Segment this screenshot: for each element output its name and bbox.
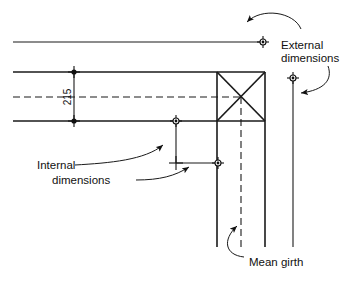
internal-dimension-origin-marker-upper: [170, 115, 182, 127]
leader-internal-to-vertical: [75, 145, 163, 165]
leader-external-to-top-line: [247, 13, 301, 29]
leader-internal-to-horizontal: [136, 167, 189, 180]
dimension-diagram-svg: 215: [0, 0, 353, 283]
mean-girth-label: Mean girth: [249, 256, 303, 268]
dimension-origin-marker-bottom: [68, 115, 80, 127]
dimension-origin-marker-top: [68, 66, 80, 78]
internal-dimensions-label-line1: Internal: [37, 159, 75, 171]
leader-external-to-return-line: [301, 66, 329, 93]
external-dimensions-label-line2: dimensions: [281, 52, 339, 64]
wall-thickness-value: 215: [62, 88, 73, 105]
external-dimension-origin-marker-right: [287, 72, 299, 84]
technical-drawing-canvas: 215: [0, 0, 353, 283]
internal-dimension-vertical-extension: [169, 115, 183, 170]
internal-dimension-origin-marker-right: [212, 157, 224, 169]
internal-dimensions-label-line2: dimensions: [52, 174, 110, 186]
external-dimension-origin-marker-top: [257, 36, 269, 48]
external-dimensions-label-line1: External: [281, 39, 323, 51]
wall-thickness-dimension: 215: [62, 66, 80, 127]
